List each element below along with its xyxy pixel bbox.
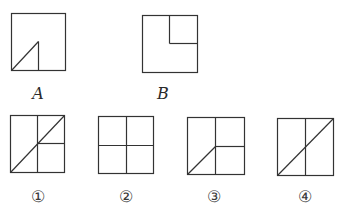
figure-a bbox=[12, 14, 66, 71]
figure-2 bbox=[99, 117, 154, 174]
inner-line bbox=[12, 42, 39, 71]
label-option-4: ④ bbox=[298, 187, 312, 206]
figures-group bbox=[11, 14, 334, 176]
inner-line bbox=[188, 147, 216, 175]
figure-4 bbox=[278, 119, 334, 176]
label-option-3: ③ bbox=[207, 187, 221, 206]
diagram-canvas bbox=[0, 0, 342, 212]
label-figure-a: A bbox=[32, 84, 44, 103]
label-option-2: ② bbox=[119, 187, 133, 206]
figure-1 bbox=[11, 116, 65, 173]
figure-3 bbox=[188, 118, 245, 175]
label-option-1: ① bbox=[31, 187, 45, 206]
figure-b bbox=[143, 16, 198, 73]
label-figure-b: B bbox=[157, 84, 169, 103]
